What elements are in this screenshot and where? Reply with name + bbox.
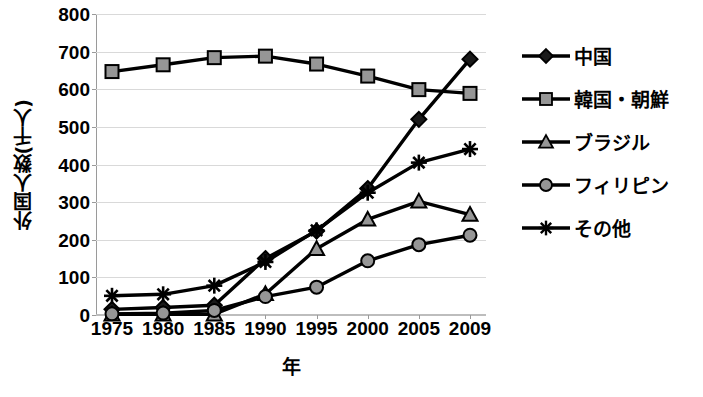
data-point-circle-marker [412, 238, 425, 251]
x-axis-tick-label: 1975 [91, 318, 133, 340]
legend-label: ブラジル [574, 128, 650, 155]
data-point-circle-marker [540, 179, 552, 191]
data-point-asterisk-marker [206, 278, 222, 294]
y-axis-tick-label: 700 [44, 43, 90, 62]
x-axis-tick-labels: 19751980198519901995200020052009 [96, 318, 486, 344]
data-point-square-marker [540, 93, 552, 105]
x-axis-tick-label: 1995 [295, 318, 337, 340]
legend-marker-circle-icon [520, 174, 572, 196]
data-point-asterisk-marker [462, 141, 478, 157]
y-axis-tickmark [92, 315, 96, 316]
data-point-square-marker [361, 70, 374, 83]
x-axis-tick-label: 2000 [347, 318, 389, 340]
y-axis-tick-label: 600 [44, 80, 90, 99]
x-axis-tick-label: 2009 [449, 318, 491, 340]
x-axis-tick-label: 1985 [193, 318, 235, 340]
y-axis-title: 外国人数(千人) [2, 0, 42, 330]
y-axis-tick-label: 500 [44, 118, 90, 137]
data-point-square-marker [259, 50, 272, 63]
chart-container: 外国人数(千人) 8007006005004003002001000 19751… [0, 0, 703, 397]
legend-item-square[interactable]: 韓国・朝鮮 [520, 77, 700, 120]
legend: 中国韓国・朝鮮ブラジルフィリピンその他 [520, 34, 700, 249]
legend-marker-asterisk-icon [520, 217, 572, 239]
plot-area [96, 14, 486, 315]
data-point-circle-marker [464, 229, 477, 242]
legend-item-asterisk[interactable]: その他 [520, 206, 700, 249]
legend-item-circle[interactable]: フィリピン [520, 163, 700, 206]
legend-marker-diamond-icon [520, 45, 572, 67]
x-axis-tick-label: 1990 [244, 318, 286, 340]
data-point-asterisk-marker [155, 286, 171, 302]
x-axis-title: 年 [96, 352, 486, 379]
data-point-circle-marker [361, 254, 374, 267]
data-point-square-marker [412, 83, 425, 96]
series-asterisk [104, 141, 478, 304]
data-point-triangle-marker [411, 194, 426, 208]
data-point-circle-marker [259, 290, 272, 303]
data-point-asterisk-marker [104, 288, 120, 304]
data-point-asterisk-marker [360, 185, 376, 201]
y-axis-title-text: 外国人数(千人) [9, 99, 36, 230]
data-point-asterisk-marker [309, 222, 325, 238]
series-circle [106, 229, 477, 321]
y-axis-tick-label: 300 [44, 193, 90, 212]
legend-item-diamond[interactable]: 中国 [520, 34, 700, 77]
x-axis-tick-label: 2005 [398, 318, 440, 340]
data-point-triangle-marker [309, 241, 324, 255]
series-lines [96, 14, 486, 315]
data-point-square-marker [464, 87, 477, 100]
y-axis-tick-label: 400 [44, 156, 90, 175]
series-square [106, 50, 477, 100]
y-axis-tick-labels: 8007006005004003002001000 [38, 0, 90, 330]
data-point-circle-marker [208, 304, 221, 317]
legend-label: フィリピン [574, 171, 669, 198]
legend-marker-square-icon [520, 88, 572, 110]
data-point-asterisk-marker [539, 220, 554, 235]
legend-label: 中国 [574, 42, 612, 69]
x-axis-tick-label: 1980 [142, 318, 184, 340]
y-axis-tick-label: 100 [44, 268, 90, 287]
legend-label: 韓国・朝鮮 [574, 85, 669, 112]
legend-label: その他 [574, 214, 631, 241]
data-point-asterisk-marker [411, 155, 427, 171]
y-axis-tick-label: 800 [44, 5, 90, 24]
data-point-asterisk-marker [257, 254, 273, 270]
y-axis-tick-label: 0 [44, 306, 90, 325]
data-point-square-marker [310, 58, 323, 71]
data-point-square-marker [106, 65, 119, 78]
legend-marker-triangle-icon [520, 131, 572, 153]
legend-item-triangle[interactable]: ブラジル [520, 120, 700, 163]
y-axis-tick-label: 200 [44, 231, 90, 250]
data-point-square-marker [208, 51, 221, 64]
data-point-square-marker [157, 58, 170, 71]
data-point-circle-marker [310, 281, 323, 294]
data-point-diamond-marker [539, 49, 553, 63]
